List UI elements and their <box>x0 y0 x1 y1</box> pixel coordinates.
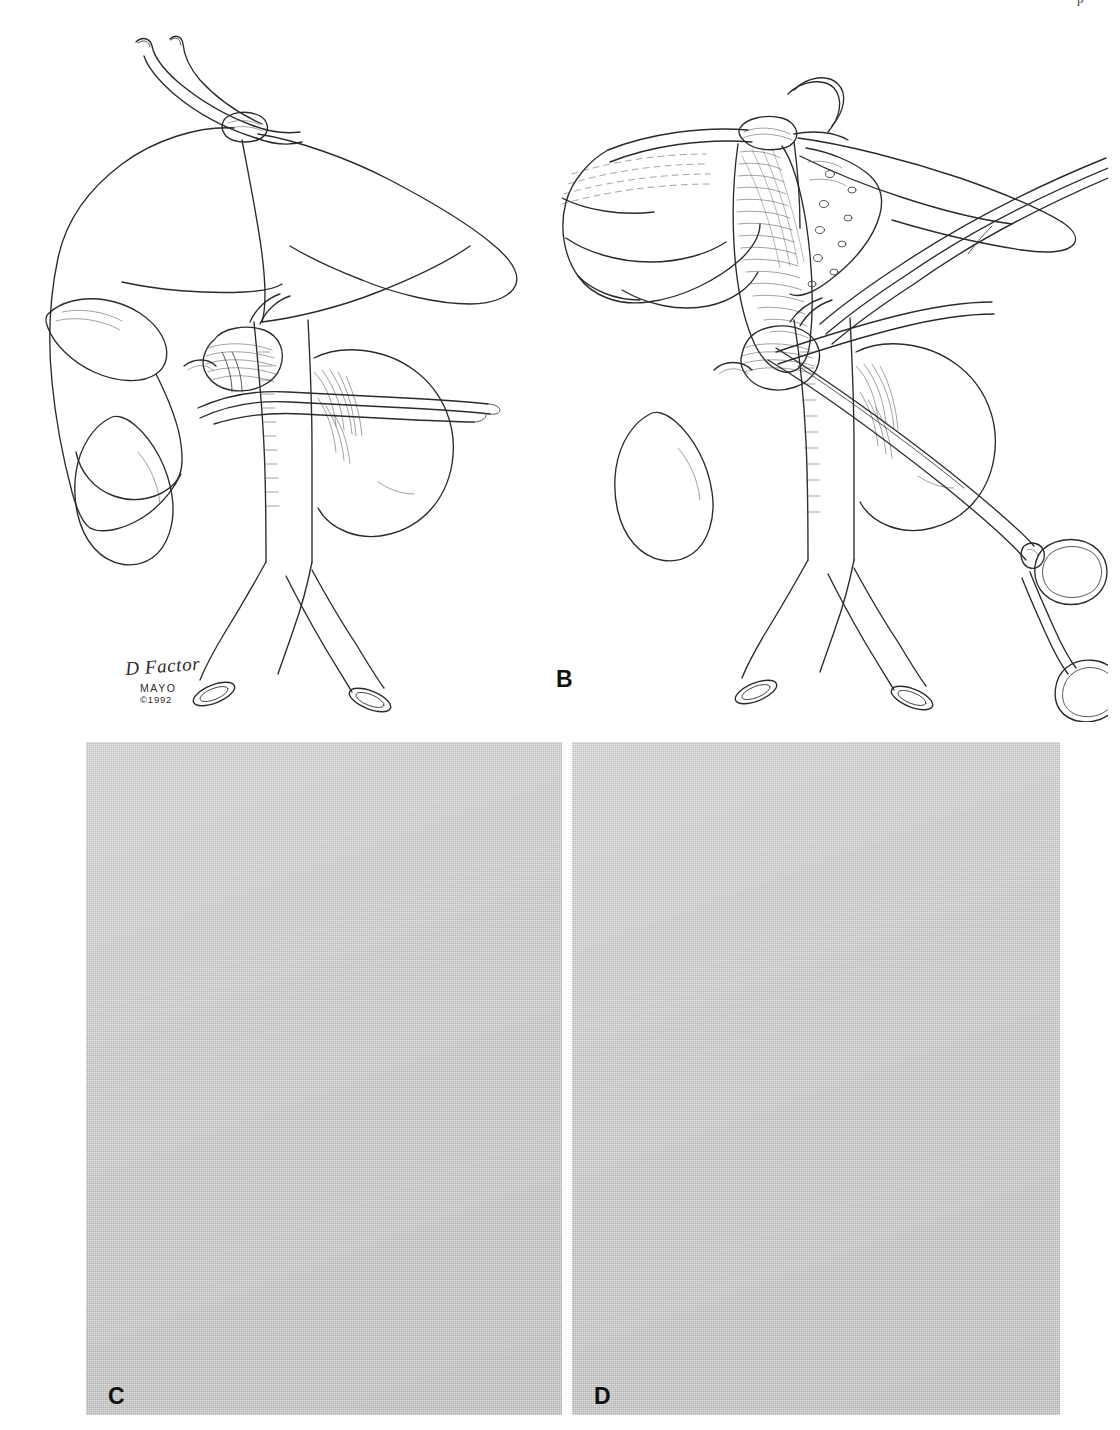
vessel-stump-marks <box>808 171 856 288</box>
panel-a-artwork <box>18 22 558 722</box>
portal-vein-hatching <box>206 344 276 382</box>
hemostat-clamp-group <box>768 348 1108 722</box>
porta-hepatis-group-b <box>714 298 832 390</box>
retroperitoneal-fat-b <box>856 364 898 458</box>
kidneys-group-b <box>615 344 996 561</box>
liver-group <box>46 36 517 530</box>
panel-label-c: C <box>108 1385 125 1408</box>
figure-plate: p <box>0 0 1120 1430</box>
retractor-hatching <box>562 154 712 204</box>
artist-signature-a: D Factor MAYO ©1992 <box>126 658 201 705</box>
page-header-fragment: p <box>0 0 1120 14</box>
panel-c <box>86 742 562 1415</box>
signature-copyright: ©1992 <box>140 694 201 705</box>
panel-label-b: B <box>556 668 573 691</box>
signature-studio: MAYO <box>140 682 201 694</box>
panel-b: D.F. MAYO ©1992 <box>562 22 1108 722</box>
panel-a: D Factor MAYO ©1992 <box>18 22 558 722</box>
signature-name: D Factor <box>124 653 200 680</box>
header-text: p <box>0 0 1120 7</box>
liver-remnant-group <box>562 116 1076 308</box>
vena-cava-group <box>190 320 394 717</box>
suture-strand-group <box>788 78 844 132</box>
vessel-loop-group <box>198 392 500 424</box>
panel-b-artwork <box>562 22 1108 722</box>
vena-cava-group-b <box>732 318 936 715</box>
porta-hepatis-group <box>184 294 290 392</box>
panel-label-d: D <box>594 1385 611 1408</box>
panel-d-artwork <box>572 742 1060 1415</box>
instrument-retractor-group <box>776 158 1108 364</box>
panel-d <box>572 742 1060 1415</box>
panel-c-artwork <box>86 742 562 1415</box>
